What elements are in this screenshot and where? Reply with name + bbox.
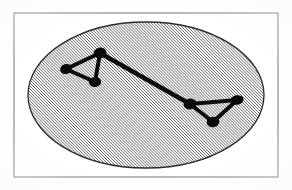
figure-container xyxy=(0,0,292,190)
figure-canvas xyxy=(0,0,292,190)
ellipse-hatch-fill xyxy=(28,22,264,168)
hatched-ellipse-region xyxy=(28,22,264,168)
